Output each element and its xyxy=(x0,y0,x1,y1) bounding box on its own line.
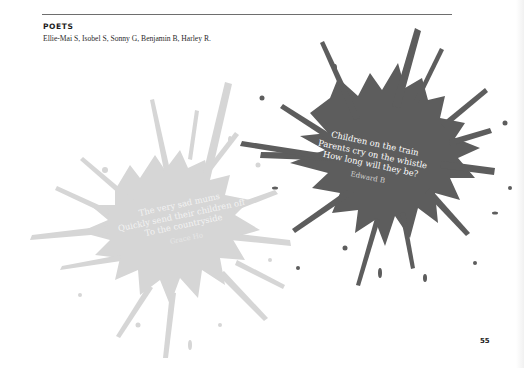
top-rule xyxy=(42,14,452,15)
section-title: POETS xyxy=(43,22,74,31)
page-number: 55 xyxy=(480,337,490,345)
poets-list: Ellie-Mai S, Isobel S, Sonny G, Benjamin… xyxy=(43,34,211,43)
